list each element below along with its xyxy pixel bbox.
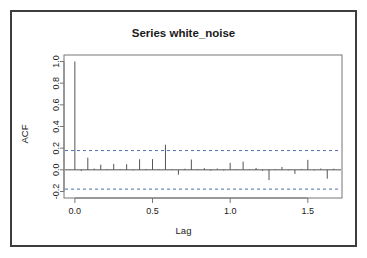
acf-chart-svg: Series white_noise -0.20.00.20.40.60.81.… xyxy=(12,12,355,245)
y-tick-label: 0.6 xyxy=(51,99,61,112)
x-tick-label: 1.0 xyxy=(224,206,237,216)
x-axis-label: Lag xyxy=(176,225,192,236)
chart-title: Series white_noise xyxy=(132,27,236,39)
plot-area: Series white_noise -0.20.00.20.40.60.81.… xyxy=(12,12,355,245)
y-axis-label: ACF xyxy=(19,124,30,143)
x-tick-label: 1.5 xyxy=(302,206,315,216)
y-tick-label: 0.2 xyxy=(51,142,61,155)
x-tick-label: 0.0 xyxy=(69,206,82,216)
y-tick-label: 0.0 xyxy=(51,164,61,177)
acf-plot-figure: Series white_noise -0.20.00.20.40.60.81.… xyxy=(0,0,367,258)
plot-outer-border: Series white_noise -0.20.00.20.40.60.81.… xyxy=(10,10,357,247)
y-tick-label: 1.0 xyxy=(51,55,61,68)
x-tick-label: 0.5 xyxy=(146,206,159,216)
y-tick-label: -0.2 xyxy=(51,184,61,200)
y-tick-label: 0.4 xyxy=(51,120,61,133)
y-tick-label: 0.8 xyxy=(51,77,61,90)
